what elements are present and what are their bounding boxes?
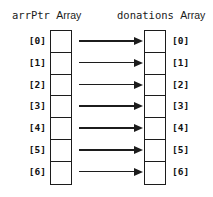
right-index-label: [4] <box>172 117 189 139</box>
right-index-label: [5] <box>172 139 189 161</box>
arrow-head <box>134 146 143 154</box>
right-index-label: [3] <box>172 95 189 117</box>
arrow-head <box>134 168 143 176</box>
left-array-heading-suffix: Array <box>56 9 81 21</box>
left-array-heading-name: arrPtr <box>12 9 50 21</box>
left-array-heading: arrPtr Array <box>12 9 81 22</box>
right-index-label: [2] <box>172 74 189 96</box>
arrow-head <box>134 37 143 45</box>
right-array-column <box>144 30 166 185</box>
left-array-cell[interactable] <box>51 53 71 75</box>
pointer-arrow-icon <box>79 102 143 111</box>
arrow-head <box>134 124 143 132</box>
arrow-head <box>134 102 143 110</box>
right-index-label: [0] <box>172 30 189 52</box>
right-array-cell[interactable] <box>145 140 165 162</box>
arrow-shaft <box>79 40 135 42</box>
arrow-head <box>134 59 143 67</box>
left-array-cell[interactable] <box>51 140 71 162</box>
pointer-arrow-icon <box>79 145 143 154</box>
pointer-arrow-icon <box>79 80 143 89</box>
pointer-arrow-icon <box>79 36 143 45</box>
left-index-label: [4] <box>29 117 46 139</box>
array-pointer-diagram: arrPtr Array donations Array [0] [1] [2]… <box>0 0 213 197</box>
right-index-label: [1] <box>172 52 189 74</box>
left-index-label: [6] <box>29 161 46 183</box>
right-array-cell[interactable] <box>145 162 165 184</box>
left-index-label: [3] <box>29 95 46 117</box>
left-array-column <box>50 30 72 185</box>
arrow-shaft <box>79 105 135 107</box>
left-array-cell[interactable] <box>51 31 71 53</box>
left-index-label: [2] <box>29 74 46 96</box>
right-array-heading: donations Array <box>117 9 205 22</box>
arrow-shaft <box>79 84 135 86</box>
pointer-arrow-icon <box>79 58 143 67</box>
left-array-cell[interactable] <box>51 162 71 184</box>
right-array-heading-suffix: Array <box>180 9 205 21</box>
right-array-cell[interactable] <box>145 53 165 75</box>
arrow-shaft <box>79 149 135 151</box>
arrow-shaft <box>79 171 135 173</box>
right-array-cell[interactable] <box>145 75 165 97</box>
left-array-cell[interactable] <box>51 118 71 140</box>
arrow-shaft <box>79 62 135 64</box>
left-index-label: [0] <box>29 30 46 52</box>
pointer-arrow-icon <box>79 124 143 133</box>
right-array-cell[interactable] <box>145 118 165 140</box>
left-array-cell[interactable] <box>51 75 71 97</box>
pointer-arrow-icon <box>79 167 143 176</box>
right-array-heading-name: donations <box>117 9 174 21</box>
right-index-label: [6] <box>172 161 189 183</box>
arrow-head <box>134 81 143 89</box>
left-array-cell[interactable] <box>51 96 71 118</box>
right-array-cell[interactable] <box>145 96 165 118</box>
arrow-shaft <box>79 127 135 129</box>
right-array-cell[interactable] <box>145 31 165 53</box>
left-index-label: [1] <box>29 52 46 74</box>
left-index-label: [5] <box>29 139 46 161</box>
